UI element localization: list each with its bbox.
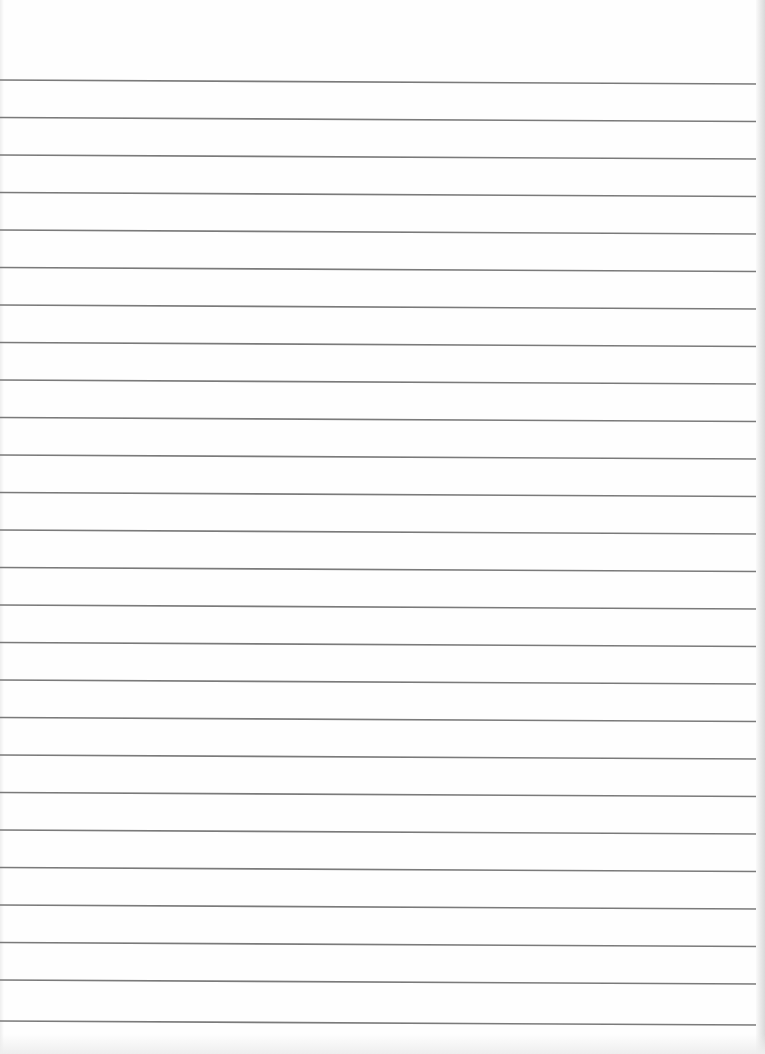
ruled-line [0, 193, 758, 197]
paper-bottom-edge-shadow [0, 1034, 765, 1054]
ruled-line [0, 980, 758, 984]
paper-right-edge-shadow [756, 0, 765, 1054]
ruled-line [0, 118, 758, 122]
ruled-line [0, 305, 758, 309]
ruled-line [0, 230, 758, 234]
ruled-line [0, 155, 758, 159]
ruled-line [0, 380, 758, 384]
ruled-line [0, 718, 758, 722]
ruled-line [0, 455, 758, 459]
ruled-line [0, 755, 758, 759]
ruled-line [0, 268, 758, 272]
ruled-line [0, 493, 758, 497]
ruled-line [0, 868, 758, 872]
ruled-line [0, 643, 758, 647]
ruled-line [0, 530, 758, 534]
ruled-line [0, 905, 758, 909]
ruled-line [0, 80, 758, 84]
ruled-lines [0, 0, 765, 1054]
ruled-line [0, 680, 758, 684]
ruled-line [0, 830, 758, 834]
ruled-line [0, 418, 758, 422]
ruled-line [0, 343, 758, 347]
lined-paper-sheet [0, 0, 765, 1054]
ruled-line [0, 793, 758, 797]
ruled-line [0, 943, 758, 947]
ruled-line [0, 1021, 758, 1025]
ruled-line [0, 605, 758, 609]
ruled-line [0, 568, 758, 572]
